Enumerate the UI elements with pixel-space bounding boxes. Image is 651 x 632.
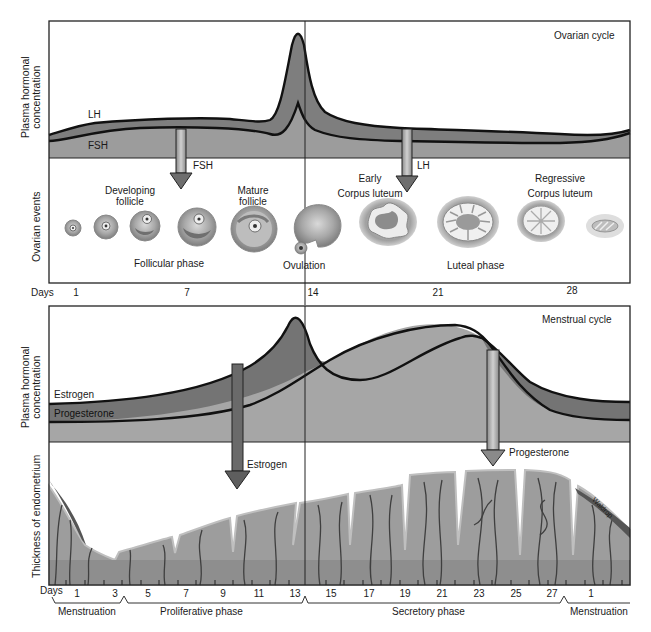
mature-line2: follicle [228,197,278,207]
developing-line2: follicle [95,197,165,207]
fsh-arrow-label: FSH [193,161,213,171]
ovarian-cycle-title: Ovarian cycle [554,31,615,41]
phase-secretory: Secretory phase [392,607,465,617]
phase-braces [52,596,630,603]
progesterone-arrow-label: Progesterone [509,448,569,458]
phase-proliferative: Proliferative phase [160,607,243,617]
corpus-luteum-mature [437,196,499,248]
mature-follicle-label: Mature follicle [228,186,278,207]
menstrual-days-label: Days [40,586,63,596]
lh-area [49,34,630,143]
developing-line1: Developing [95,186,165,196]
y-axis-label-line2: concentration [31,346,42,428]
ovarian-day-28: 28 [566,286,577,296]
early-cl-line1: Early [330,174,410,184]
follicle-ovulating [294,205,341,254]
ovarian-events-axis-label: Ovarian events [31,191,42,262]
corpus-luteum-regressive [517,200,565,242]
menstrual-day: 21 [436,589,447,599]
menstrual-day: 1 [588,589,594,599]
lh-label: LH [88,110,101,120]
follicular-phase-label: Follicular phase [134,259,204,269]
follicle-4 [178,208,216,246]
endometrium-illustration [49,470,630,585]
hormone-base-area [49,318,630,442]
lh-curve [49,34,630,135]
progesterone-label: Progesterone [54,409,114,419]
corpus-luteum-early [359,198,417,246]
early-corpus-luteum-label: Early Corpus luteum [330,174,410,199]
menstrual-day: 13 [289,589,300,599]
ovarian-day-7: 7 [184,288,190,298]
luteal-phase-label: Luteal phase [447,261,504,271]
early-cl-line2: Corpus luteum [330,189,410,199]
ovarian-y-axis-label: Plasma hormonal concentration [20,56,42,138]
menstrual-day: 9 [220,589,226,599]
estrogen-arrow-label: Estrogen [247,460,287,470]
menstrual-day: 27 [546,589,557,599]
menstrual-day: 25 [510,589,521,599]
menstrual-y-axis-label: Plasma hormonal concentration [20,346,42,428]
menstrual-day: 19 [399,589,410,599]
menstrual-day: 23 [473,589,484,599]
developing-follicle-label: Developing follicle [95,186,165,207]
mature-line1: Mature [228,186,278,196]
regressive-cl-line2: Corpus luteum [520,189,600,199]
follicle-3 [130,211,160,241]
estrogen-label: Estrogen [54,390,94,400]
corpus-albicans [586,214,624,238]
fsh-label: FSH [88,141,108,151]
ovarian-day-14: 14 [307,288,318,298]
menstrual-day: 5 [145,589,151,599]
menstrual-hormone-plot [49,318,630,442]
regressive-corpus-luteum-label: Regressive Corpus luteum [520,174,600,199]
menstrual-day: 7 [183,589,189,599]
lh-arrow-label: LH [417,161,430,171]
ovarian-day-1: 1 [73,288,79,298]
ovulation-label: Ovulation [283,261,325,271]
menstrual-day: 1 [74,589,80,599]
follicle-stages [65,205,341,254]
follicle-2 [94,215,118,239]
ovarian-hormone-plot [49,34,630,158]
menstrual-day: 15 [325,589,336,599]
phase-menstruation-end: Menstruation [570,607,628,617]
endometrium-axis-label: Thickness of endometrium [31,455,42,578]
menstrual-cycle-title: Menstrual cycle [542,315,611,325]
menstrual-day: 17 [363,589,374,599]
ovarian-day-21: 21 [432,288,443,298]
follicle-1 [65,220,81,236]
phase-menstruation-start: Menstruation [58,607,116,617]
y-axis-label-line2: concentration [31,56,42,138]
ovarian-days-label: Days [31,288,54,298]
menstrual-day: 11 [254,589,264,599]
corpus-luteum-stages [359,196,624,248]
follicle-mature [231,206,277,252]
menstrual-day: 3 [112,589,118,599]
regressive-cl-line1: Regressive [520,174,600,184]
